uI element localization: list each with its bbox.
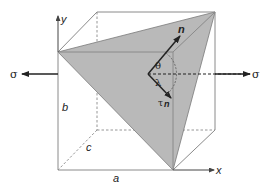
theta-label: θ <box>155 60 161 71</box>
schmid-cube-diagram: y x σ σ n τ n θ λ b c a <box>0 0 266 187</box>
sigma-left-label: σ <box>10 68 18 81</box>
normal-label: n <box>178 23 185 35</box>
y-axis-label: y <box>60 13 68 25</box>
tau-label: τ <box>158 98 163 108</box>
slip-plane <box>58 12 215 170</box>
tau-subscript: n <box>164 99 170 109</box>
edge-c-label: c <box>86 141 92 153</box>
edge-b-label: b <box>62 101 68 113</box>
sigma-right-label: σ <box>252 68 260 81</box>
lambda-label: λ <box>155 77 162 88</box>
x-axis-label: x <box>215 164 222 176</box>
edge-a-label: a <box>113 172 119 184</box>
